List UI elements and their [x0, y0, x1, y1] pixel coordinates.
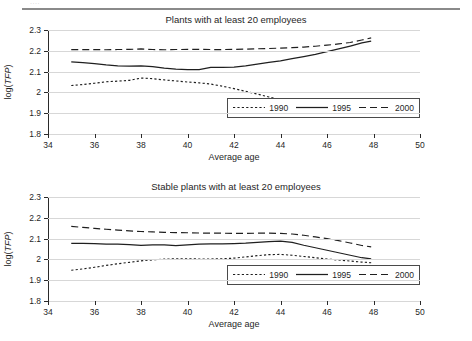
x-tick-label: 40 — [183, 307, 192, 317]
legend-swatch-dotted — [233, 271, 265, 278]
series-lines-top — [48, 30, 420, 134]
x-tick — [327, 134, 328, 138]
legend-item-2000[interactable]: 2000 — [359, 103, 414, 113]
x-tick — [141, 301, 142, 305]
legend-label: 1995 — [332, 103, 351, 113]
x-tick — [281, 134, 282, 138]
legend-swatch-solid — [296, 104, 328, 111]
gridline-y — [48, 239, 420, 240]
y-tick-label: 2.3 — [29, 192, 41, 202]
legend-top: 199019952000 — [227, 98, 420, 118]
y-tick-label: 2.2 — [29, 46, 41, 56]
x-tick-label: 46 — [322, 140, 331, 150]
legend-item-2000[interactable]: 2000 — [359, 270, 414, 280]
plot-area-top: log(TFP) Average age 199019952000 1.81.9… — [48, 30, 420, 134]
x-tick-label: 42 — [229, 140, 238, 150]
y-tick — [44, 259, 48, 260]
legend-label: 1995 — [332, 270, 351, 280]
x-tick — [420, 301, 421, 305]
gridline-y — [48, 259, 420, 260]
x-tick — [234, 301, 235, 305]
gridline-y — [48, 113, 420, 114]
series-lines-bottom — [48, 197, 420, 301]
x-axis-title-bottom: Average age — [48, 319, 420, 329]
x-tick — [95, 301, 96, 305]
x-tick — [95, 134, 96, 138]
legend-item-1995[interactable]: 1995 — [296, 270, 351, 280]
gridline-y — [48, 280, 420, 281]
y-tick — [44, 197, 48, 198]
legend-swatch-dashed — [359, 104, 391, 111]
y-tick-label: 1.8 — [29, 296, 41, 306]
x-tick-label: 36 — [90, 307, 99, 317]
y-tick-label: 1.8 — [29, 129, 41, 139]
x-tick-label: 46 — [322, 307, 331, 317]
y-tick-label: 2 — [36, 87, 41, 97]
x-tick-label: 34 — [43, 140, 52, 150]
x-tick — [281, 301, 282, 305]
series-line-2000 — [71, 38, 371, 50]
x-tick — [374, 134, 375, 138]
chart-panel-bottom: Stable plants with at least 20 employees… — [0, 179, 472, 339]
x-tick — [188, 301, 189, 305]
x-tick — [48, 134, 49, 138]
chart-title-top: Plants with at least 20 employees — [0, 14, 472, 25]
legend-label: 1990 — [269, 103, 288, 113]
x-tick — [374, 301, 375, 305]
y-tick — [44, 113, 48, 114]
legend-item-1995[interactable]: 1995 — [296, 103, 351, 113]
legend-item-1990[interactable]: 1990 — [233, 103, 288, 113]
legend-label: 1990 — [269, 270, 288, 280]
x-tick-label: 34 — [43, 307, 52, 317]
x-tick-label: 44 — [276, 307, 285, 317]
y-tick — [44, 51, 48, 52]
y-tick-label: 2.2 — [29, 213, 41, 223]
y-axis-title-bottom: log(TFP) — [3, 231, 13, 266]
x-tick — [327, 301, 328, 305]
y-tick — [44, 218, 48, 219]
y-tick-label: 2.1 — [29, 234, 41, 244]
y-tick — [44, 92, 48, 93]
y-tick-label: 2 — [36, 254, 41, 264]
plot-area-bottom: log(TFP) Average age 199019952000 1.81.9… — [48, 197, 420, 301]
x-tick-label: 50 — [415, 307, 424, 317]
header-divider — [22, 8, 460, 10]
gridline-y — [48, 72, 420, 73]
y-tick-label: 2.1 — [29, 67, 41, 77]
x-tick — [48, 301, 49, 305]
chart-title-bottom: Stable plants with at least 20 employees — [0, 181, 472, 192]
y-tick-label: 1.9 — [29, 275, 41, 285]
legend-swatch-dotted — [233, 104, 265, 111]
y-tick — [44, 72, 48, 73]
x-tick — [420, 134, 421, 138]
legend-item-1990[interactable]: 1990 — [233, 270, 288, 280]
legend-label: 2000 — [395, 270, 414, 280]
series-line-1995 — [71, 241, 371, 259]
x-tick-label: 48 — [369, 307, 378, 317]
x-axis-title-top: Average age — [48, 152, 420, 162]
y-tick — [44, 280, 48, 281]
x-tick-label: 40 — [183, 140, 192, 150]
x-tick-label: 42 — [229, 307, 238, 317]
y-tick-label: 2.3 — [29, 25, 41, 35]
figure-page: ···· Plants with at least 20 employees l… — [0, 0, 472, 341]
x-tick — [188, 134, 189, 138]
x-tick-label: 44 — [276, 140, 285, 150]
x-tick-label: 50 — [415, 140, 424, 150]
gridline-y — [48, 197, 420, 198]
y-axis-title-top: log(TFP) — [3, 64, 13, 99]
gridline-y — [48, 218, 420, 219]
cut-off-header-text: ···· — [30, 0, 40, 7]
legend-swatch-solid — [296, 271, 328, 278]
y-tick — [44, 239, 48, 240]
gridline-y — [48, 30, 420, 31]
y-tick-label: 1.9 — [29, 108, 41, 118]
x-tick-label: 38 — [136, 307, 145, 317]
gridline-y — [48, 92, 420, 93]
legend-swatch-dashed — [359, 271, 391, 278]
gridline-y — [48, 51, 420, 52]
legend-bottom: 199019952000 — [227, 265, 420, 285]
x-tick-label: 48 — [369, 140, 378, 150]
x-tick — [141, 134, 142, 138]
x-tick — [234, 134, 235, 138]
